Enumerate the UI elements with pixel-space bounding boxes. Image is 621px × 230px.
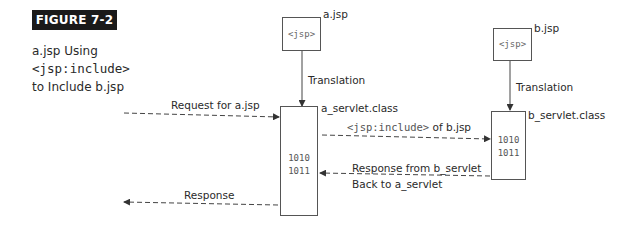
b-jsp-content: <jsp> (494, 29, 531, 60)
a-translation-label: Translation (308, 74, 365, 86)
include-arrow (322, 135, 490, 139)
include-tag: <jsp:include> (347, 121, 429, 133)
b-jsp-box: <jsp> (493, 28, 532, 61)
b-servlet-box: 1010 1011 (491, 111, 526, 180)
response-label: Response (184, 189, 234, 201)
b-servlet-label: b_servlet.class (528, 109, 605, 121)
a-jsp-label: a.jsp (323, 8, 348, 20)
request-label: Request for a.jsp (171, 99, 260, 111)
include-suffix: of b.jsp (429, 121, 471, 133)
a-jsp-box: <jsp> (282, 17, 321, 51)
a-servlet-bits-1: 1010 (281, 152, 317, 165)
b-servlet-bits-1: 1010 (492, 134, 525, 147)
back-to-a-label: Back to a_servlet (352, 178, 442, 190)
a-servlet-bits-2: 1011 (281, 165, 317, 178)
a-servlet-label: a_servlet.class (321, 102, 398, 114)
b-translation-label: Translation (516, 81, 573, 93)
a-jsp-content: <jsp> (283, 18, 320, 50)
request-arrow (124, 113, 279, 117)
response-from-b-label: Response from b_servlet (352, 162, 481, 174)
b-jsp-label: b.jsp (534, 22, 559, 34)
include-label: <jsp:include> of b.jsp (347, 121, 471, 133)
b-servlet-bits-2: 1011 (492, 147, 525, 160)
response-arrow (124, 202, 278, 205)
a-servlet-box: 1010 1011 (280, 106, 318, 216)
